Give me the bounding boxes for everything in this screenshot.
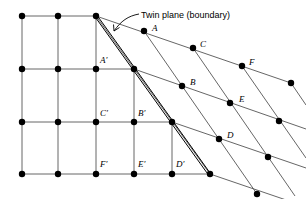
atom-B-prime (131, 119, 137, 125)
figure-canvas: Twin plane (boundary) (0, 0, 306, 199)
atom (19, 119, 25, 125)
atom (265, 154, 271, 160)
twin-plane-line-a (95, 16, 209, 175)
label-F: F (248, 57, 255, 67)
atom (254, 191, 260, 197)
atom-F-prime (93, 171, 99, 177)
atom-A (141, 28, 147, 34)
atom (276, 118, 282, 124)
twin-col-3 (242, 66, 306, 158)
label-B: B (190, 77, 196, 87)
callout-label: Twin plane (boundary) (141, 10, 230, 20)
label-B-prime: B′ (138, 108, 146, 118)
label-A-prime: A′ (99, 55, 108, 65)
label-F-prime: F′ (99, 159, 108, 169)
twin-col-1 (144, 31, 257, 194)
atom (19, 13, 25, 19)
label-A: A (151, 23, 158, 33)
twin-plane-line-b (98, 16, 212, 175)
atom-F (239, 63, 245, 69)
twin-col-4 (291, 83, 306, 105)
label-C-prime: C′ (100, 108, 109, 118)
atom-twin-vertex-1 (131, 66, 137, 72)
callout-leader (114, 14, 140, 31)
lattice-svg: Twin plane (boundary) (0, 0, 306, 199)
atom (55, 171, 61, 177)
label-E-prime: E′ (137, 159, 146, 169)
label-D: D (226, 130, 234, 140)
atom-A-prime (93, 66, 99, 72)
label-E: E (238, 94, 245, 104)
label-C: C (200, 39, 207, 49)
atom-D (216, 136, 222, 142)
atom (55, 13, 61, 19)
atom (288, 80, 294, 86)
atom-E-prime (131, 171, 137, 177)
atom (55, 119, 61, 125)
atom (19, 66, 25, 72)
atom (55, 66, 61, 72)
atom-D-prime (169, 171, 175, 177)
atom (19, 171, 25, 177)
left-atoms (19, 13, 213, 177)
twin-col-0 (96, 16, 210, 174)
atom-E (227, 100, 233, 106)
atom-B (179, 83, 185, 89)
atom-C-prime (93, 119, 99, 125)
left-lattice-lines (22, 16, 210, 174)
label-D-prime: D′ (175, 159, 185, 169)
atom-C (190, 45, 196, 51)
atom-twin-vertex-2 (169, 119, 175, 125)
atom-twin-vertex-top (93, 13, 99, 19)
atom-twin-vertex-bottom (207, 171, 213, 177)
